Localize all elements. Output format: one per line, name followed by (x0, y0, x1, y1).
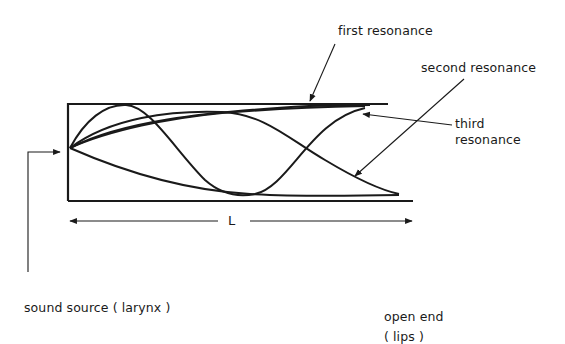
second-resonance-label: second resonance (421, 60, 536, 75)
open-end-label-line1: open end (384, 309, 444, 324)
first-resonance-label: first resonance (338, 23, 433, 38)
second-resonance-arrow (355, 79, 464, 176)
tube (68, 103, 413, 201)
third-resonance-label-line2: resonance (455, 132, 521, 147)
third-resonance-arrow (363, 114, 452, 125)
sound-source-label: sound source ( larynx ) (24, 300, 170, 315)
open-end-label-line2: ( lips ) (384, 329, 424, 344)
second-resonance-curve (70, 112, 399, 194)
third-resonance-label-line1: third (455, 116, 485, 131)
sound-source-arrow (28, 152, 60, 272)
length-label: L (228, 213, 235, 228)
first-resonance-arrow (310, 44, 335, 101)
third-resonance-curve (70, 105, 365, 195)
lower-envelope-curve (70, 148, 399, 196)
